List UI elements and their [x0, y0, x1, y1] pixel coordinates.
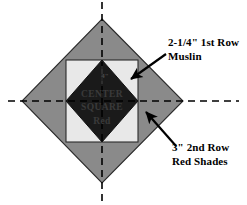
- center-dimension-label: 4": [101, 72, 109, 80]
- center-square-label-line3: Red: [93, 116, 111, 126]
- red-shades-annotation-line1: 3" 2nd Row: [172, 141, 229, 153]
- muslin-annotation-line2: Muslin: [168, 50, 202, 62]
- diagram-canvas: 4" CENTER SQUARE Red 2-1/4" 1st Row Musl…: [0, 0, 247, 205]
- muslin-annotation-line1: 2-1/4" 1st Row: [168, 36, 239, 48]
- center-square-label-line2: SQUARE: [81, 102, 123, 112]
- center-square-label-line1: CENTER: [81, 89, 123, 99]
- red-shades-annotation-line2: Red Shades: [172, 155, 228, 167]
- quilt-block-diagram: 4" CENTER SQUARE Red 2-1/4" 1st Row Musl…: [0, 0, 247, 205]
